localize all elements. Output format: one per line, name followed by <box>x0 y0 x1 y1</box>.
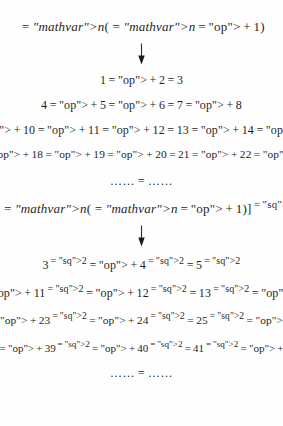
block-one-header-formula: = "mathvar">n( = "mathvar">n = "op"> + 1… <box>18 20 265 34</box>
down-arrow-icon <box>136 43 147 65</box>
equation-row: 1 = "op"> + 2 = 3 <box>100 74 183 86</box>
equation-row: 36 = "sq">2 = "op"> + 37 = "sq">2 = "op"… <box>0 340 283 354</box>
block-two-header-formula: [2 = "mathvar">n( = "mathvar">n = "op"> … <box>0 199 283 217</box>
equation-row: 16 = "op"> + 17 = "op"> + 18 = "op"> + 1… <box>0 149 283 160</box>
equation-row: 21 = "sq">2 = "op"> + 22 = "sq">2 = "op"… <box>0 312 283 326</box>
block-one-rows: 1 = "op"> + 2 = 3 4 = "op"> + 5 = "op"> … <box>6 74 277 186</box>
equation-row: 9 = "op"> + 10 = "op"> + 11 = "op"> + 12… <box>0 124 283 136</box>
ellipsis-row: …… = …… <box>110 367 173 379</box>
down-arrow-icon <box>136 225 147 247</box>
ellipsis-row: …… = …… <box>110 175 173 187</box>
equation-row: 10 = "sq">2 = "op"> + 11 = "sq">2 = "op"… <box>0 284 283 299</box>
pattern-block-squares: [2 = "mathvar">n( = "mathvar">n = "op"> … <box>6 199 277 379</box>
block-two-rows: 3 = "sq">2 = "op"> + 4 = "sq">2 = 5 = "s… <box>6 256 277 379</box>
pattern-block-linear: = "mathvar">n( = "mathvar">n = "op"> + 1… <box>6 20 277 187</box>
equation-row: 3 = "sq">2 = "op"> + 4 = "sq">2 = 5 = "s… <box>43 256 241 271</box>
document-page: = "mathvar">n( = "mathvar">n = "op"> + 1… <box>0 0 283 426</box>
equation-row: 4 = "op"> + 5 = "op"> + 6 = 7 = "op"> + … <box>41 99 242 111</box>
